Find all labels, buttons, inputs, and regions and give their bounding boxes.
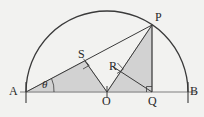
vertex-label-A: A bbox=[9, 85, 18, 97]
geometry-figure: A B O P Q R S θ bbox=[0, 0, 204, 117]
vertex-label-S: S bbox=[78, 48, 85, 60]
vertex-label-Q: Q bbox=[148, 95, 157, 107]
vertex-label-O: O bbox=[102, 95, 111, 107]
vertex-label-R: R bbox=[109, 60, 117, 72]
angle-label-theta: θ bbox=[42, 79, 47, 90]
vertex-label-B: B bbox=[190, 85, 198, 97]
shaded-triangle-ASO bbox=[26, 61, 107, 92]
vertex-label-P: P bbox=[155, 11, 162, 23]
